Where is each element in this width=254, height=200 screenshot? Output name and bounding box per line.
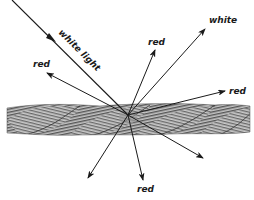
label-red-bottom: red <box>137 184 155 194</box>
ray-white-upper-right <box>128 29 205 115</box>
label-red-upper-left: red <box>33 59 51 69</box>
label-red-right: red <box>229 86 247 96</box>
light-scattering-diagram: white light red red white red red <box>0 0 254 200</box>
twisted-rope <box>0 100 254 140</box>
label-white: white <box>209 15 237 25</box>
label-red-upper-center: red <box>148 37 166 47</box>
arrowhead-icon <box>46 33 56 42</box>
incident-ray-white-light: white light <box>12 0 128 115</box>
